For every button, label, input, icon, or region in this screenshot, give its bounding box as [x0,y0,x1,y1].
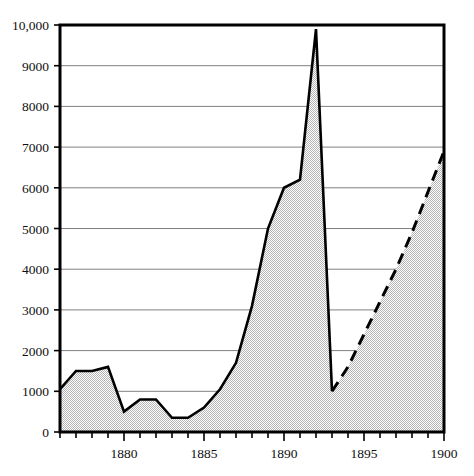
y-axis-tick-label: 4000 [22,262,49,277]
y-axis-tick-label: 9000 [22,59,49,74]
x-axis: 18801885189018951900 [60,432,458,461]
y-axis-tick-label: 1000 [22,384,49,399]
y-axis-tick-label: 5000 [22,222,49,237]
y-axis-tick-label: 8000 [22,99,49,114]
y-axis-tick-label: 10,000 [12,18,49,33]
x-axis-tick-label: 1885 [191,446,218,461]
y-axis: 010002000300040005000600070008000900010,… [12,18,60,440]
x-axis-tick-label: 1890 [271,446,298,461]
y-axis-tick-label: 0 [42,425,49,440]
x-axis-tick-label: 1895 [351,446,378,461]
y-axis-tick-label: 7000 [22,140,49,155]
chart-container: 010002000300040005000600070008000900010,… [0,0,474,476]
y-axis-tick-label: 6000 [22,181,49,196]
y-axis-tick-label: 2000 [22,344,49,359]
x-axis-tick-label: 1880 [111,446,138,461]
area-chart: 010002000300040005000600070008000900010,… [0,0,474,476]
y-axis-tick-label: 3000 [22,303,49,318]
x-axis-tick-label: 1900 [431,446,458,461]
